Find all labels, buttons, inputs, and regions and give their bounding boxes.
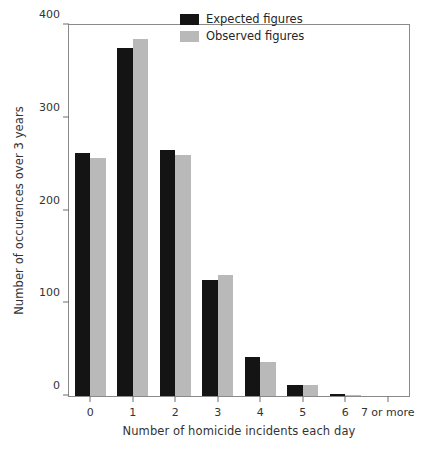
bar-chart-figure: Number of occurences over 3 years 010020… (0, 0, 429, 458)
y-tick-mark (63, 395, 69, 396)
x-tick-label: 7 or more (361, 396, 415, 418)
x-tick-label: 4 (257, 396, 264, 418)
bar-observed (90, 158, 105, 396)
bar-observed (303, 385, 318, 396)
legend-swatch-observed (180, 31, 199, 42)
bar-group (287, 25, 318, 396)
bar-expected (160, 150, 175, 396)
bar-observed (175, 155, 190, 396)
chart-legend: Expected figures Observed figures (180, 14, 304, 42)
y-axis-title: Number of occurences over 3 years (12, 24, 34, 397)
bar-group (202, 25, 233, 396)
bar-group (75, 25, 106, 396)
legend-label-expected: Expected figures (206, 14, 303, 26)
bar-observed (218, 275, 233, 396)
bar-observed (133, 39, 148, 396)
x-axis-title: Number of homicide incidents each day (68, 424, 410, 438)
x-tick-label: 5 (299, 396, 306, 418)
y-tick-label: 300 (39, 101, 69, 112)
bar-group (372, 25, 403, 396)
bar-group (160, 25, 191, 396)
bar-group (330, 25, 361, 396)
y-tick-label: 400 (39, 9, 69, 20)
bar-expected (117, 48, 132, 396)
legend-swatch-expected (180, 14, 199, 25)
y-tick-label: 200 (39, 194, 69, 205)
bar-expected (287, 385, 302, 396)
legend-item-expected: Expected figures (180, 14, 304, 26)
y-tick-mark (63, 24, 69, 25)
bar-expected (75, 153, 90, 396)
y-tick-label: 100 (39, 287, 69, 298)
x-tick-label: 2 (172, 396, 179, 418)
x-tick-label: 3 (214, 396, 221, 418)
bar-expected (202, 280, 217, 396)
bar-group (245, 25, 276, 396)
bar-group (117, 25, 148, 396)
y-tick-label: 0 (53, 380, 69, 391)
bar-observed (260, 362, 275, 396)
legend-item-observed: Observed figures (180, 31, 304, 43)
x-tick-label: 0 (87, 396, 94, 418)
x-tick-label: 6 (342, 396, 349, 418)
x-tick-label: 1 (129, 396, 136, 418)
y-tick-mark (63, 116, 69, 117)
y-tick-mark (63, 302, 69, 303)
y-tick-mark (63, 209, 69, 210)
plot-area: 010020030040001234567 or more (68, 24, 410, 397)
legend-label-observed: Observed figures (206, 31, 304, 43)
bar-expected (245, 357, 260, 396)
